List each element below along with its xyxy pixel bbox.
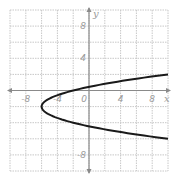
axes: [7, 7, 171, 174]
x-tick-label: 8: [149, 94, 155, 104]
parabola-chart: -8-404884-8 x y: [0, 0, 178, 183]
y-axis-label: y: [92, 8, 99, 19]
x-tick-label: 0: [81, 94, 87, 104]
y-tick-label: 4: [80, 53, 86, 63]
x-tick-label: -8: [21, 94, 30, 104]
x-tick-label: 4: [118, 94, 124, 104]
y-tick-label: -8: [77, 150, 86, 160]
y-tick-label: 8: [80, 21, 86, 31]
x-axis-label: x: [164, 93, 170, 104]
